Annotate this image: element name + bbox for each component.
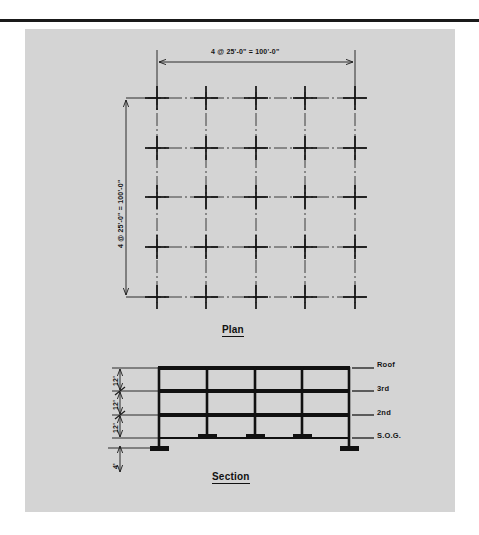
section-level-leaders (352, 368, 374, 438)
section-level-label-roof: Roof (377, 360, 395, 369)
drawing-canvas (0, 0, 479, 535)
section-level-label-sog: S.O.G. (377, 431, 401, 440)
section-level-label-3rd: 3rd (377, 384, 389, 393)
plan-top-dimension-label: 4 @ 25'-0" = 100'-0" (211, 48, 279, 55)
plan-left-dimension-label: 4 @ 25'-0" = 100'-0" (117, 180, 124, 248)
section-footings (150, 434, 359, 451)
structural-drawing-figure: 4 @ 25'-0" = 100'-0" 4 @ 25'-0" = 100'-0… (0, 0, 479, 535)
section-story-height-label-2: 12' (112, 400, 119, 410)
section-level-label-2nd: 2nd (377, 408, 391, 417)
section-foundation-depth-label: 4' (112, 463, 119, 469)
section-story-height-label-1: 12' (112, 376, 119, 386)
plan-top-dimension-line (157, 50, 355, 92)
plan-title: Plan (222, 324, 244, 337)
section-story-height-label-3: 12' (112, 423, 119, 433)
section-title: Section (212, 471, 250, 484)
